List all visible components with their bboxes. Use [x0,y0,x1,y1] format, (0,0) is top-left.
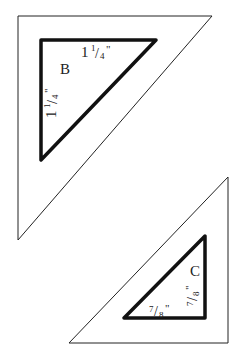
template-b: B 1 1 / 4 " 1 1 / 4 " [18,16,212,240]
template-c-right-quote: " [183,286,195,291]
template-c: C 7 / 8 " 7 / 8 " [69,177,228,343]
template-c-right-slash: / [185,297,200,301]
template-c-bottom-slash: / [154,304,158,319]
template-b-top-quote: " [106,43,111,55]
template-b-left-slash: / [45,100,60,104]
diagram-canvas: B 1 1 / 4 " 1 1 / 4 " C 7 / 8 " 7 / 8 [0,0,244,355]
template-c-right-measure: 7 / 8 " [183,286,201,307]
template-c-letter: C [190,263,200,279]
template-b-left-quote: " [42,89,54,94]
template-b-letter: B [60,61,70,77]
template-b-left-den: 4 [50,94,60,99]
template-b-top-whole: 1 [81,44,89,60]
template-b-left-measure: 1 1 / 4 " [42,89,60,119]
template-b-left-whole: 1 [43,111,59,119]
template-b-seam-allowance-outline [18,16,212,240]
template-b-top-den: 4 [100,51,105,61]
template-b-top-slash: / [95,46,99,61]
template-c-bottom-den: 8 [159,310,164,320]
template-b-top-measure: 1 1 / 4 " [81,43,111,61]
template-c-right-den: 8 [191,291,201,296]
template-c-bottom-quote: " [165,302,170,314]
